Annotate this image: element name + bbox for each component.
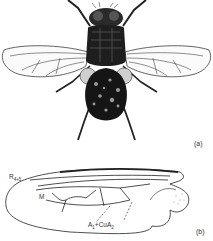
left-wing: [2, 46, 88, 77]
fly-illustration: [0, 0, 213, 241]
label-a1-cua2: A1+CuA2: [88, 221, 114, 230]
label-m: M: [39, 193, 44, 200]
panel-label-a: (a): [194, 140, 203, 147]
fly-figure: (a) (b) R4+5 M A1+CuA2: [0, 0, 213, 241]
panel-label-b: (b): [196, 228, 205, 235]
thorax: [86, 25, 126, 66]
right-wing: [125, 46, 211, 77]
alula-stipple: [174, 194, 185, 205]
label-r45: R4+5: [9, 173, 21, 182]
abdomen: [85, 68, 127, 121]
